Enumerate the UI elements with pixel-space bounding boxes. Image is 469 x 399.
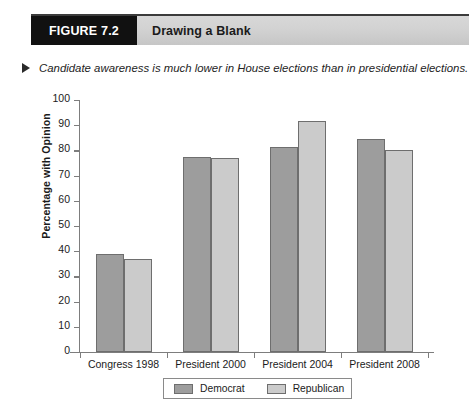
y-axis-tick-mark	[74, 201, 80, 202]
bar-republican-2	[298, 121, 326, 352]
bar-group	[183, 100, 239, 352]
x-axis-tick-mark	[167, 352, 168, 358]
bar-democrat-3	[357, 139, 385, 352]
x-axis-label-0: Congress 1998	[88, 358, 159, 370]
bar-chart: Percentage with Opinion 0102030405060708…	[0, 0, 469, 399]
y-axis-tick-mark	[74, 125, 80, 126]
legend-swatch-republican	[267, 384, 286, 394]
y-axis-tick-label: 10	[58, 319, 70, 331]
y-axis-tick-label: 90	[58, 117, 70, 129]
legend-label-democrat: Democrat	[200, 383, 245, 394]
plot-area: 0102030405060708090100Congress 1998Presi…	[80, 100, 428, 352]
y-axis-tick-label: 20	[58, 294, 70, 306]
y-axis-tick-label: 100	[52, 92, 70, 104]
y-axis-tick-label: 60	[58, 193, 70, 205]
y-axis-tick-label: 70	[58, 168, 70, 180]
y-axis-tick-mark	[74, 100, 80, 101]
bar-group	[96, 100, 152, 352]
y-axis-tick-label: 40	[58, 243, 70, 255]
x-axis-label-2: President 2004	[262, 358, 333, 370]
x-axis-line	[70, 352, 434, 353]
y-axis-tick-label: 50	[58, 218, 70, 230]
y-axis-tick-mark	[74, 176, 80, 177]
legend-swatch-democrat	[174, 384, 193, 394]
y-axis-tick-mark	[74, 226, 80, 227]
bar-republican-1	[211, 158, 239, 352]
bar-republican-3	[385, 150, 413, 352]
x-axis-tick-mark	[80, 352, 81, 358]
x-axis-tick-mark	[254, 352, 255, 358]
legend-entry-republican: Republican	[267, 383, 345, 394]
chart-legend: Democrat Republican	[163, 378, 352, 399]
bar-republican-0	[124, 259, 152, 352]
bar-democrat-0	[96, 254, 124, 352]
bar-group	[270, 100, 326, 352]
y-axis-tick-label: 0	[64, 344, 70, 356]
legend-label-republican: Republican	[293, 383, 345, 394]
bar-group	[357, 100, 413, 352]
y-axis-tick-label: 80	[58, 142, 70, 154]
bar-democrat-2	[270, 147, 298, 352]
x-axis-tick-mark	[341, 352, 342, 358]
x-axis-label-3: President 2008	[349, 358, 420, 370]
y-axis-title: Percentage with Opinion	[40, 76, 52, 276]
y-axis-tick-mark	[74, 251, 80, 252]
x-axis-label-1: President 2000	[175, 358, 246, 370]
y-axis-tick-mark	[74, 327, 80, 328]
y-axis-tick-label: 30	[58, 268, 70, 280]
y-axis-tick-mark	[74, 276, 80, 277]
x-axis-tick-mark	[428, 352, 429, 358]
bar-democrat-1	[183, 157, 211, 352]
y-axis-tick-mark	[74, 302, 80, 303]
y-axis-tick-mark	[74, 150, 80, 151]
legend-entry-democrat: Democrat	[174, 383, 245, 394]
